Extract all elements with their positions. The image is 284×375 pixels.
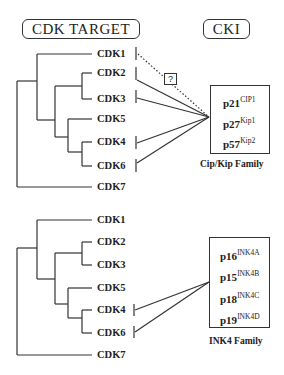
inhibitor-p16: p16INK4A bbox=[220, 247, 260, 262]
top-phylogenetic-tree bbox=[17, 54, 92, 187]
bottom-cdk-label: CDK4 bbox=[97, 304, 126, 316]
bottom-cdk-label: CDK6 bbox=[97, 327, 126, 339]
inhibitor-p27: p27Kip1 bbox=[223, 115, 255, 130]
uncertain-interaction-marker: ? bbox=[164, 73, 177, 85]
bottom-cdk-label: CDK1 bbox=[97, 214, 126, 226]
top-cdk-label: CDK7 bbox=[97, 181, 126, 193]
bottom-cdk-label: CDK3 bbox=[97, 259, 126, 271]
cip-kip-inhibitor-box: p21CIP1 p27Kip1 p57Kip2 bbox=[210, 85, 270, 154]
ink4-family-label: INK4 Family bbox=[209, 336, 263, 346]
inhibitor-p15: p15INK4B bbox=[220, 268, 259, 283]
top-cdk-label: CDK5 bbox=[97, 113, 126, 125]
bottom-phylogenetic-tree bbox=[17, 220, 92, 355]
cdk-target-header: CDK TARGET bbox=[22, 19, 140, 39]
top-cdk-label: CDK6 bbox=[97, 160, 126, 172]
inhibitor-p18: p18INK4C bbox=[220, 290, 259, 305]
top-cdk-label: CDK2 bbox=[97, 67, 126, 79]
bottom-cdk-label: CDK5 bbox=[97, 282, 126, 294]
bottom-cdk-label: CDK2 bbox=[97, 236, 126, 248]
top-cdk-label: CDK4 bbox=[97, 136, 126, 148]
ink4-inhibitor-box: p16INK4A p15INK4B p18INK4C p19INK4D bbox=[209, 237, 270, 328]
inhibitor-p21: p21CIP1 bbox=[223, 94, 256, 109]
cki-header: CKI bbox=[203, 19, 250, 39]
inhibitor-p19: p19INK4D bbox=[220, 311, 260, 326]
top-cdk-label: CDK1 bbox=[97, 48, 126, 60]
inhibitor-p57: p57Kip2 bbox=[223, 135, 255, 150]
top-inhibition-lines bbox=[136, 47, 209, 172]
bottom-cdk-label: CDK7 bbox=[97, 349, 126, 361]
bottom-inhibition-lines bbox=[134, 282, 209, 338]
cip-kip-family-label: Cip/Kip Family bbox=[200, 159, 264, 169]
top-cdk-label: CDK3 bbox=[97, 93, 126, 105]
